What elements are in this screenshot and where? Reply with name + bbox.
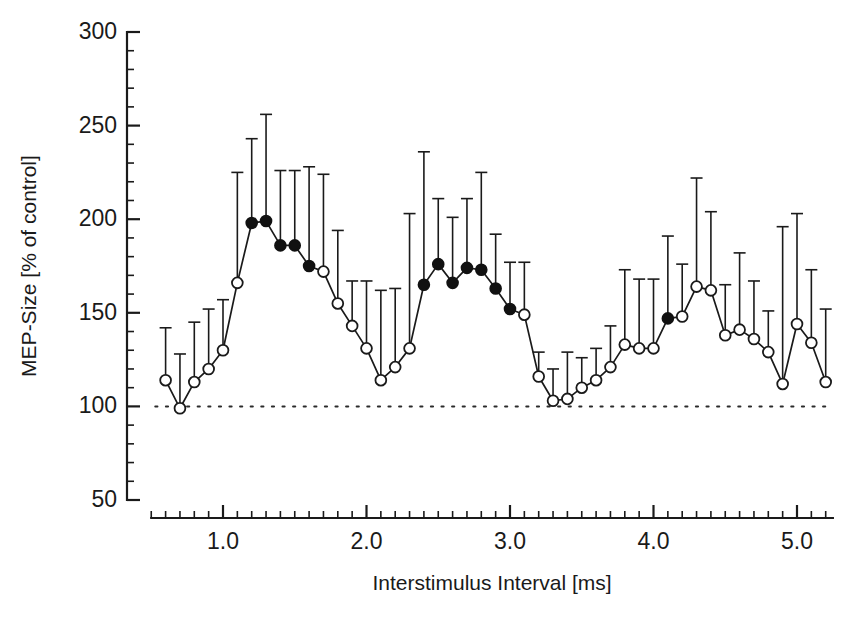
data-point-significant xyxy=(275,240,286,251)
data-point xyxy=(777,379,788,390)
data-point xyxy=(677,311,688,322)
data-point xyxy=(562,394,573,405)
data-point xyxy=(361,343,372,354)
figure-root: 50100150200250300 1.02.03.04.05.0 MEP-Si… xyxy=(0,0,855,617)
x-tick-label: 3.0 xyxy=(494,528,526,554)
data-point-significant xyxy=(419,279,430,290)
data-point-significant xyxy=(490,283,501,294)
data-point xyxy=(332,298,343,309)
data-point xyxy=(749,334,760,345)
error-bars xyxy=(160,114,832,408)
y-tick-label: 100 xyxy=(79,392,117,418)
data-point xyxy=(806,337,817,348)
data-point xyxy=(720,330,731,341)
x-tick-label: 5.0 xyxy=(781,528,813,554)
data-point xyxy=(218,345,229,356)
data-point xyxy=(232,277,243,288)
data-point xyxy=(318,266,329,277)
data-point-significant xyxy=(304,261,315,272)
data-point xyxy=(648,343,659,354)
data-point-significant xyxy=(505,304,516,315)
data-point-significant xyxy=(261,216,272,227)
data-point xyxy=(160,375,171,386)
data-point-significant xyxy=(462,262,473,273)
mep-size-line-chart: 50100150200250300 1.02.03.04.05.0 MEP-Si… xyxy=(0,0,855,617)
data-point-significant xyxy=(246,218,257,229)
data-point-significant xyxy=(662,313,673,324)
data-point xyxy=(792,319,803,330)
data-point xyxy=(390,362,401,373)
y-tick-label: 50 xyxy=(91,486,117,512)
data-point xyxy=(734,324,745,335)
y-tick-label: 250 xyxy=(79,112,117,138)
data-point xyxy=(619,339,630,350)
data-point xyxy=(519,309,530,320)
data-point xyxy=(548,395,559,406)
data-point xyxy=(763,347,774,358)
data-point xyxy=(375,375,386,386)
y-axis-title: MEP-Size [% of control] xyxy=(17,155,40,377)
data-point xyxy=(605,362,616,373)
data-point xyxy=(189,377,200,388)
y-axis: 50100150200250300 xyxy=(79,18,140,512)
data-point xyxy=(576,382,587,393)
x-tick-label: 4.0 xyxy=(638,528,670,554)
data-point-significant xyxy=(289,240,300,251)
data-point-significant xyxy=(476,264,487,275)
data-point xyxy=(691,281,702,292)
data-point xyxy=(591,375,602,386)
data-point xyxy=(533,371,544,382)
data-point-significant xyxy=(447,277,458,288)
x-axis: 1.02.03.04.05.0 xyxy=(151,505,833,554)
y-tick-label: 200 xyxy=(79,205,117,231)
data-point xyxy=(404,343,415,354)
x-axis-title: Interstimulus Interval [ms] xyxy=(372,571,611,594)
data-point xyxy=(347,321,358,332)
data-point xyxy=(634,343,645,354)
data-point xyxy=(175,403,186,414)
data-point xyxy=(203,364,214,375)
data-point xyxy=(820,377,831,388)
x-tick-label: 2.0 xyxy=(351,528,383,554)
data-point-significant xyxy=(433,259,444,270)
x-tick-label: 1.0 xyxy=(207,528,239,554)
y-tick-label: 150 xyxy=(79,299,117,325)
y-tick-label: 300 xyxy=(79,18,117,44)
data-point xyxy=(706,285,717,296)
